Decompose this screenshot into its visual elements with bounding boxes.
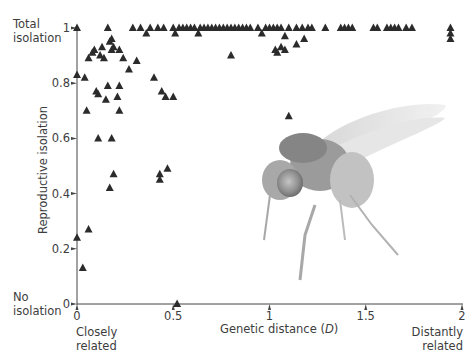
y-tick-mark	[71, 192, 77, 195]
y-tick-mark	[71, 303, 77, 306]
triangle-marker-icon	[104, 24, 112, 32]
triangle-marker-icon	[115, 81, 123, 89]
triangle-marker-icon	[73, 233, 81, 241]
triangle-marker-icon	[104, 81, 112, 89]
y-tick-label: 0.8	[52, 76, 70, 90]
y-tick-label: 1	[63, 21, 70, 35]
y-tick-label: 0.6	[52, 131, 70, 145]
triangle-marker-icon	[129, 24, 137, 32]
triangle-marker-icon	[281, 32, 289, 39]
fruit-fly-image	[262, 104, 446, 280]
triangle-marker-icon	[90, 46, 98, 54]
triangle-marker-icon	[137, 24, 145, 32]
triangle-marker-icon	[321, 24, 329, 32]
x-tick-label: 1.5	[357, 309, 375, 323]
triangle-marker-icon	[150, 73, 158, 81]
triangle-marker-icon	[285, 24, 293, 32]
y-tick-label: 0.4	[52, 187, 70, 201]
triangle-marker-icon	[125, 65, 133, 73]
y-tick-mark	[71, 247, 77, 250]
triangle-marker-icon	[106, 184, 114, 192]
x-tick-label: 1	[266, 309, 273, 323]
triangle-marker-icon	[108, 134, 116, 142]
data-points	[73, 24, 454, 308]
y-tick-mark	[71, 137, 77, 140]
triangle-marker-icon	[94, 134, 102, 142]
triangle-marker-icon	[115, 106, 123, 114]
triangle-marker-icon	[133, 57, 141, 65]
triangle-marker-icon	[85, 225, 93, 233]
triangle-marker-icon	[292, 40, 300, 48]
triangle-marker-icon	[173, 300, 181, 308]
triangle-marker-icon	[73, 70, 81, 78]
triangle-marker-icon	[102, 95, 110, 103]
triangle-marker-icon	[227, 51, 235, 59]
triangle-marker-icon	[83, 106, 91, 114]
y-tick-mark	[71, 82, 77, 85]
triangle-marker-icon	[254, 24, 262, 32]
triangle-marker-icon	[169, 93, 177, 101]
triangle-marker-icon	[108, 35, 116, 43]
scatter-plot: 10.80.60.40.20 00.511.52	[0, 0, 473, 363]
triangle-marker-icon	[160, 24, 168, 32]
triangle-marker-icon	[300, 35, 308, 43]
triangle-marker-icon	[81, 73, 89, 81]
x-tick-label: 0.5	[164, 309, 182, 323]
triangle-marker-icon	[163, 164, 171, 172]
triangle-marker-icon	[408, 24, 416, 32]
triangle-marker-icon	[73, 24, 81, 32]
triangle-marker-icon	[146, 24, 154, 32]
triangle-marker-icon	[79, 264, 87, 272]
triangle-marker-icon	[98, 43, 106, 51]
x-axis-ticks: 00.511.52	[73, 304, 465, 323]
triangle-marker-icon	[119, 54, 127, 62]
y-axis-ticks: 10.80.60.40.20	[52, 21, 77, 311]
x-tick-label: 2	[458, 309, 465, 323]
y-tick-label: 0	[63, 297, 70, 311]
y-tick-label: 0.2	[52, 242, 70, 256]
x-tick-label: 0	[73, 309, 80, 323]
triangle-marker-icon	[110, 170, 118, 178]
triangle-marker-icon	[285, 112, 293, 120]
triangle-marker-icon	[113, 93, 121, 101]
triangle-marker-icon	[158, 87, 166, 95]
